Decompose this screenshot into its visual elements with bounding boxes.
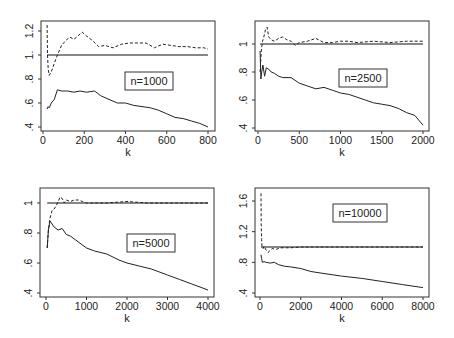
series-lower-solid	[47, 221, 208, 290]
x-tick-label: 600	[158, 134, 176, 146]
y-tick-label: .4	[237, 288, 249, 297]
x-axis-label: k	[339, 312, 345, 324]
y-tick-label: .6	[23, 98, 35, 107]
x-tick-label: 3000	[156, 300, 180, 312]
figure-grid: 0200400600800k.4.6.81.1.2n=1000 05001000…	[0, 0, 454, 338]
y-tick-label: 1	[22, 200, 34, 206]
y-tick-label: .8	[22, 228, 34, 237]
series-upper-dashed	[261, 193, 423, 252]
legend-label: n=5000	[132, 237, 169, 249]
series-upper-dashed	[260, 27, 423, 72]
y-tick-label: 1.2	[237, 224, 249, 239]
y-tick-label: .4	[237, 123, 249, 132]
x-tick-label: 0	[40, 134, 46, 146]
x-tick-label: 8000	[411, 300, 435, 312]
panel-n2500: 0500100015002000k.4.6.81n=2500	[237, 21, 435, 158]
y-tick-label: .8	[237, 258, 249, 267]
legend-label: n=2500	[344, 72, 381, 84]
y-tick-label: 1.6	[237, 194, 249, 209]
y-tick-label: .6	[237, 95, 249, 104]
x-axis-label: k	[125, 146, 131, 158]
series-lower-solid	[47, 90, 208, 127]
x-tick-label: 200	[75, 134, 93, 146]
legend-label: n=1000	[130, 75, 167, 87]
panel-n10000: 02000400060008000k.4.81.21.6n=10000	[237, 188, 435, 324]
x-axis-label: k	[339, 146, 345, 158]
series-lower-solid	[261, 255, 423, 288]
x-tick-label: 0	[255, 134, 261, 146]
x-tick-label: 1500	[370, 134, 394, 146]
x-tick-label: 4000	[330, 300, 354, 312]
x-tick-label: 2000	[115, 300, 139, 312]
x-tick-label: 1000	[329, 134, 353, 146]
x-tick-label: 0	[43, 300, 49, 312]
y-tick-label: .8	[23, 74, 35, 83]
series-upper-dashed	[47, 25, 208, 75]
y-tick-label: .4	[23, 122, 35, 131]
series-lower-solid	[260, 51, 423, 125]
x-tick-label: 2000	[411, 134, 435, 146]
y-tick-label: .8	[237, 67, 249, 76]
x-tick-label: 400	[117, 134, 135, 146]
x-tick-label: 4000	[196, 300, 220, 312]
y-tick-label: .6	[22, 258, 34, 267]
panel-n1000: 0200400600800k.4.6.81.1.2n=1000	[23, 21, 217, 158]
x-tick-label: 1000	[75, 300, 99, 312]
y-tick-label: 1.2	[23, 24, 35, 39]
x-tick-label: 6000	[371, 300, 395, 312]
y-tick-label: 1	[237, 41, 249, 47]
x-tick-label: 0	[257, 300, 263, 312]
y-tick-label: 1.	[23, 51, 35, 60]
x-tick-label: 2000	[289, 300, 313, 312]
x-tick-label: 800	[199, 134, 217, 146]
x-axis-label: k	[124, 312, 130, 324]
legend-label: n=10000	[338, 207, 381, 219]
x-tick-label: 500	[290, 134, 308, 146]
panel-n5000: 01000200030004000k.4.6.81n=5000	[22, 188, 220, 324]
y-tick-label: .4	[22, 288, 34, 297]
